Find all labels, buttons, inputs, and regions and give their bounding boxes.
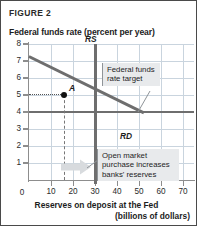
reserve-demand-label: RD (120, 131, 132, 141)
y-tick-label-3: 3 (7, 125, 21, 133)
x-tick-label-60: 60 (152, 188, 170, 196)
y-tick-8 (23, 43, 29, 44)
x-tick-label-50: 50 (130, 188, 148, 196)
x-axis-title-line1: Reserves on deposit at the Fed (1, 200, 192, 210)
y-tick-label-8: 8 (7, 40, 21, 48)
y-tick-label-6: 6 (7, 74, 21, 82)
callout-open-market-purchase: Open market purchase increases banks' re… (97, 149, 179, 181)
callout-omo-line2: purchase increases (102, 160, 176, 169)
y-tick-7 (23, 60, 29, 61)
x-tick-10 (51, 180, 52, 186)
equilibrium-point-a (61, 92, 67, 98)
callout-target-line2: rate target (107, 74, 157, 83)
figure-container: FIGURE 2 Federal funds rate (percent per… (0, 0, 197, 226)
x-tick-label-70: 70 (174, 188, 192, 196)
x-tick-label-40: 40 (108, 188, 126, 196)
y-axis-title: Federal funds rate (percent per year) (9, 27, 155, 37)
callout-target-leader-line (137, 91, 151, 113)
gridline-y-3 (29, 129, 194, 130)
y-tick-label-7: 7 (7, 57, 21, 65)
gridline-y-7 (29, 61, 194, 62)
origin-label: 0 (15, 188, 29, 197)
callout-omo-line1: Open market (102, 151, 176, 160)
y-tick-3 (23, 128, 29, 129)
y-tick-1 (23, 162, 29, 163)
equilibrium-point-a-label: A (69, 83, 75, 93)
y-tick-label-5: 5 (7, 91, 21, 99)
y-tick-2 (23, 145, 29, 146)
y-tick-label-4: 4 (7, 108, 21, 116)
reserve-supply-label: RS (85, 34, 97, 44)
callout-target-line1: Federal funds (107, 65, 157, 74)
callout-omo-line3: banks' reserves (102, 170, 176, 179)
y-tick-label-1: 1 (7, 159, 21, 167)
figure-number: FIGURE 2 (9, 8, 51, 18)
gridline-y-8 (29, 44, 194, 45)
x-tick-label-10: 10 (42, 188, 60, 196)
guide-line-horizontal-5pct (29, 94, 63, 95)
y-tick-label-2: 2 (7, 142, 21, 150)
x-axis-title-line2: (billions of dollars) (1, 211, 190, 221)
x-tick-label-20: 20 (64, 188, 82, 196)
x-tick-label-30: 30 (86, 188, 104, 196)
y-tick-6 (23, 77, 29, 78)
callout-federal-funds-target: Federal funds rate target (102, 63, 160, 86)
x-tick-20 (73, 180, 74, 186)
federal-funds-target-line (29, 111, 194, 113)
gridline-y-2 (29, 146, 194, 147)
x-tick-70 (183, 180, 184, 186)
